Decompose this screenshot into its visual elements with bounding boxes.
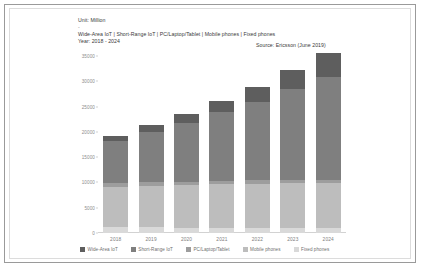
chart-inner-frame: Unit: Million - Wide-Area IoT | Short-Ra… — [9, 8, 411, 259]
legend-item-short-range-iot[interactable]: Short-Range IoT — [131, 247, 173, 252]
legend-swatch — [131, 247, 136, 252]
stacked-bar[interactable] — [174, 114, 199, 233]
bar-column[interactable]: 2019 — [139, 56, 164, 233]
bar-segment-fixed-phones[interactable] — [316, 228, 341, 233]
bar-segment-mobile-phones[interactable] — [209, 184, 234, 227]
bar-column[interactable]: 2018 — [103, 56, 128, 233]
bar-group: 2018201920202021202220232024 — [98, 56, 346, 233]
y-axis-tick-label: 10000 — [82, 180, 95, 185]
bar-segment-short-range-iot[interactable] — [103, 141, 128, 183]
unit-label: Unit: Million — [78, 17, 105, 24]
bar-column[interactable]: 2020 — [174, 56, 199, 233]
x-axis-tick-label: 2019 — [145, 237, 156, 242]
x-axis-tick-label: 2022 — [252, 237, 263, 242]
stacked-bar[interactable] — [280, 70, 305, 233]
legend-label: PC/Laptop/Tablet — [193, 247, 229, 252]
bar-segment-wide-area-iot[interactable] — [245, 87, 270, 102]
bar-segment-mobile-phones[interactable] — [174, 185, 199, 227]
bar-segment-short-range-iot[interactable] — [316, 77, 341, 180]
bar-segment-wide-area-iot[interactable] — [174, 114, 199, 123]
bar-segment-short-range-iot[interactable] — [245, 102, 270, 181]
legend-item-pc-laptop-tablet[interactable]: PC/Laptop/Tablet — [186, 247, 230, 252]
y-axis-tick-label: 30000 — [82, 79, 95, 84]
legend-swatch — [186, 247, 191, 252]
legend-item-fixed-phones[interactable]: Fixed phones — [294, 247, 330, 252]
bar-segment-fixed-phones[interactable] — [103, 227, 128, 233]
plot-area: 05000100001500020000250003000035000 2018… — [98, 56, 346, 233]
y-axis-tick-label: 0 — [92, 231, 95, 236]
bar-column[interactable]: 2021 — [209, 56, 234, 233]
bar-segment-short-range-iot[interactable] — [280, 89, 305, 180]
series-list-label: Wide-Area IoT | Short-Range IoT | PC/Lap… — [78, 31, 275, 38]
legend-label: Mobile phones — [250, 247, 281, 252]
legend-swatch — [243, 247, 248, 252]
bar-segment-wide-area-iot[interactable] — [316, 53, 341, 77]
legend-item-wide-area-iot[interactable]: Wide-Area IoT — [80, 247, 118, 252]
bar-column[interactable]: 2023 — [280, 56, 305, 233]
header-dash: - — [78, 24, 80, 31]
x-axis-tick-label: 2020 — [181, 237, 192, 242]
x-axis-tick-label: 2023 — [287, 237, 298, 242]
bar-segment-mobile-phones[interactable] — [280, 183, 305, 228]
bar-segment-short-range-iot[interactable] — [174, 123, 199, 182]
y-axis-tick-label: 20000 — [82, 129, 95, 134]
bar-segment-mobile-phones[interactable] — [245, 184, 270, 228]
bar-segment-mobile-phones[interactable] — [139, 186, 164, 227]
stacked-bar[interactable] — [103, 136, 128, 233]
stacked-bar[interactable] — [316, 53, 341, 233]
legend-swatch — [294, 247, 299, 252]
y-axis-tick-label: 15000 — [82, 155, 95, 160]
legend-label: Wide-Area IoT — [88, 247, 118, 252]
source-label: Source: Ericsson (June 2019) — [256, 42, 326, 49]
bar-segment-fixed-phones[interactable] — [174, 228, 199, 233]
bar-segment-fixed-phones[interactable] — [139, 227, 164, 233]
year-range-label: Year: 2018 - 2024 — [78, 38, 120, 45]
bar-segment-fixed-phones[interactable] — [209, 228, 234, 233]
y-axis-tick-label: 5000 — [84, 205, 95, 210]
legend-label: Fixed phones — [301, 247, 329, 252]
bar-column[interactable]: 2022 — [245, 56, 270, 233]
bar-segment-wide-area-iot[interactable] — [209, 101, 234, 112]
x-axis-tick-label: 2018 — [110, 237, 121, 242]
stacked-bar[interactable] — [209, 101, 234, 233]
bar-column[interactable]: 2024 — [316, 56, 341, 233]
bar-segment-wide-area-iot[interactable] — [280, 70, 305, 89]
bar-segment-mobile-phones[interactable] — [316, 183, 341, 228]
stacked-bar[interactable] — [245, 87, 270, 233]
bar-segment-fixed-phones[interactable] — [280, 228, 305, 233]
y-axis-tick-label: 35000 — [82, 54, 95, 59]
bar-segment-short-range-iot[interactable] — [139, 132, 164, 183]
bar-segment-mobile-phones[interactable] — [103, 187, 128, 227]
stacked-bar[interactable] — [139, 125, 164, 233]
bar-segment-short-range-iot[interactable] — [209, 112, 234, 181]
legend-item-mobile-phones[interactable]: Mobile phones — [243, 247, 281, 252]
legend-label: Short-Range IoT — [138, 247, 173, 252]
legend-swatch — [80, 247, 85, 252]
y-axis-tick-label: 25000 — [82, 104, 95, 109]
bar-segment-fixed-phones[interactable] — [245, 228, 270, 233]
x-axis-tick-label: 2021 — [216, 237, 227, 242]
chart-card: Unit: Million - Wide-Area IoT | Short-Ra… — [4, 4, 416, 263]
x-axis-tick-label: 2024 — [323, 237, 334, 242]
chart-legend: Wide-Area IoTShort-Range IoTPC/Laptop/Ta… — [80, 247, 329, 252]
